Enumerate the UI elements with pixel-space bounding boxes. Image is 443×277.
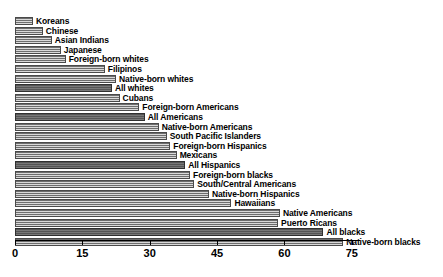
bar bbox=[15, 190, 209, 198]
bar bbox=[15, 199, 231, 207]
x-axis-tick-mark bbox=[217, 240, 218, 245]
x-axis-tick-label: 0 bbox=[12, 247, 18, 259]
bar bbox=[15, 65, 105, 73]
bar bbox=[15, 94, 120, 102]
bar bbox=[15, 180, 194, 188]
bar bbox=[15, 171, 190, 179]
bar bbox=[15, 151, 177, 159]
bar bbox=[15, 228, 323, 236]
bar bbox=[15, 75, 116, 83]
x-axis-tick-label: 75 bbox=[346, 247, 358, 259]
bar bbox=[15, 27, 43, 35]
bar bbox=[15, 123, 159, 131]
x-axis-tick-mark bbox=[284, 240, 285, 245]
bar-label: Hawaiians bbox=[234, 197, 275, 209]
x-axis-tick-mark bbox=[15, 240, 16, 245]
bar-chart: KoreansChineseAsian IndiansJapaneseForei… bbox=[0, 0, 443, 277]
bar bbox=[15, 113, 145, 121]
bar bbox=[15, 84, 112, 92]
x-axis-line bbox=[15, 240, 360, 241]
x-axis-tick-mark bbox=[82, 240, 83, 245]
bar bbox=[15, 17, 33, 25]
plot-area: KoreansChineseAsian IndiansJapaneseForei… bbox=[0, 0, 443, 277]
bar bbox=[15, 238, 343, 246]
bar bbox=[15, 219, 278, 227]
bar bbox=[15, 36, 52, 44]
x-axis-tick-mark bbox=[352, 240, 353, 245]
bar bbox=[15, 103, 139, 111]
bar bbox=[15, 132, 167, 140]
bar bbox=[15, 46, 61, 54]
x-axis-tick-mark bbox=[150, 240, 151, 245]
bar bbox=[15, 209, 280, 217]
x-axis-tick-label: 45 bbox=[211, 247, 223, 259]
bar-label: Native-born blacks bbox=[346, 236, 420, 248]
x-axis-tick-label: 15 bbox=[76, 247, 88, 259]
bar bbox=[15, 55, 66, 63]
x-axis-tick-label: 60 bbox=[278, 247, 290, 259]
x-axis-tick-label: 30 bbox=[144, 247, 156, 259]
bar bbox=[15, 142, 170, 150]
bar bbox=[15, 161, 185, 169]
